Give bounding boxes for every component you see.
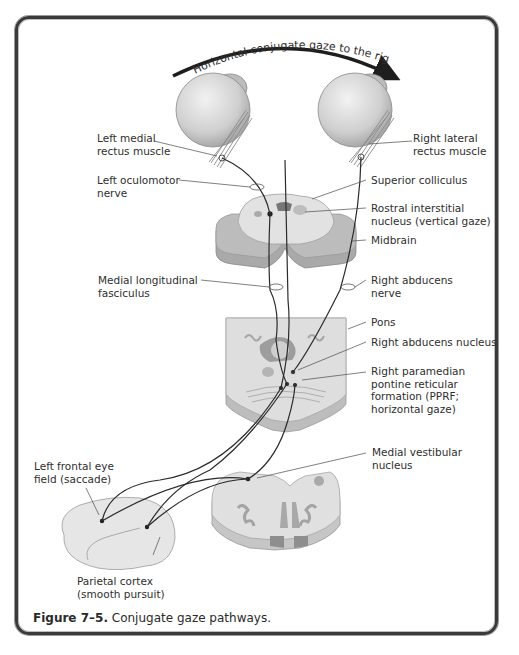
caption-text: Conjugate gaze pathways.: [112, 611, 271, 625]
left-eye: [176, 73, 252, 168]
label-right-abducens-nucleus: Right abducens nucleus: [371, 336, 497, 349]
caption-number: Figure 7–5.: [33, 611, 108, 625]
figure-caption: Figure 7–5. Conjugate gaze pathways.: [33, 611, 271, 625]
label-pons: Pons: [371, 316, 396, 329]
label-medial-vestibular-nucleus: Medial vestibular nucleus: [372, 446, 462, 471]
label-parietal-cortex: Parietal cortex (smooth pursuit): [77, 575, 165, 600]
label-medial-longitudinal-fasciculus: Medial longitudinal fasciculus: [98, 274, 198, 299]
right-eye: [318, 73, 394, 168]
svg-text:Horizontal conjugate gaze to t: Horizontal conjugate gaze to the right: [0, 0, 391, 77]
pons-section: [226, 318, 346, 432]
medulla-section: [212, 472, 340, 550]
label-right-lateral-rectus: Right lateral rectus muscle: [413, 132, 486, 157]
label-left-oculomotor-nerve: Left oculomotor nerve: [97, 174, 180, 199]
label-right-abducens-nerve: Right abducens nerve: [371, 274, 453, 299]
arc-title: Horizontal conjugate gaze to the right: [0, 0, 391, 77]
label-left-frontal-eye-field: Left frontal eye field (saccade): [34, 460, 114, 485]
label-rostral-interstitial-nucleus: Rostral interstitial nucleus (vertical g…: [371, 202, 491, 227]
label-midbrain: Midbrain: [371, 234, 417, 247]
diagram-artwork: Horizontal conjugate gaze to the right: [0, 0, 519, 655]
gaze-direction-arrow: Horizontal conjugate gaze to the right: [0, 0, 391, 77]
label-right-pprf: Right paramedian pontine reticular forma…: [371, 365, 465, 415]
label-left-medial-rectus: Left medial rectus muscle: [97, 132, 170, 157]
left-hemisphere: [62, 497, 175, 569]
label-superior-colliculus: Superior colliculus: [371, 174, 467, 187]
